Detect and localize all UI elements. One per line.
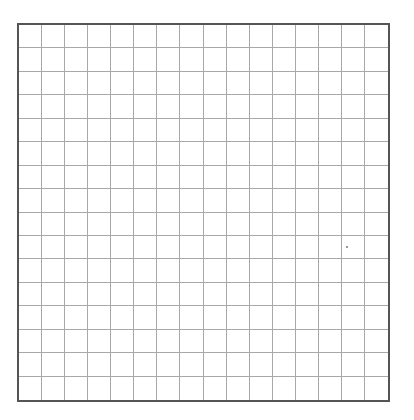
grid-cell <box>342 306 365 329</box>
grid-cell <box>42 283 65 306</box>
grid-cell <box>204 306 227 329</box>
grid-cell <box>227 353 250 376</box>
grid-cell <box>250 213 273 236</box>
grid-cell <box>157 213 180 236</box>
grid-cell <box>250 48 273 71</box>
grid-cell <box>180 48 203 71</box>
grid-cell <box>365 213 388 236</box>
grid-cell <box>273 259 296 282</box>
grid-cell <box>19 25 42 48</box>
grid-cell <box>134 189 157 212</box>
grid-cell <box>204 259 227 282</box>
grid-cell <box>365 48 388 71</box>
grid-cell <box>19 166 42 189</box>
grid-cell <box>180 283 203 306</box>
grid-cell <box>65 25 88 48</box>
grid-cell <box>111 25 134 48</box>
grid-cell <box>204 353 227 376</box>
grid-cell <box>342 353 365 376</box>
grid-cell <box>180 119 203 142</box>
grid-cell <box>88 166 111 189</box>
grid-cell <box>42 353 65 376</box>
grid-cell <box>227 189 250 212</box>
grid-cell <box>365 166 388 189</box>
grid-cell <box>88 48 111 71</box>
grid-cell <box>42 377 65 400</box>
grid-cell <box>319 213 342 236</box>
grid-cell <box>319 377 342 400</box>
grid-cell <box>319 166 342 189</box>
grid-cell <box>227 119 250 142</box>
grid-cell <box>342 213 365 236</box>
grid-cell <box>134 306 157 329</box>
grid-cell <box>273 213 296 236</box>
grid-cell <box>319 72 342 95</box>
grid-cell <box>157 72 180 95</box>
grid-cell <box>296 48 319 71</box>
grid-cell <box>134 25 157 48</box>
grid-cell <box>88 95 111 118</box>
grid-cell <box>204 166 227 189</box>
grid-cell <box>342 259 365 282</box>
grid-cell <box>134 166 157 189</box>
grid-cell <box>111 95 134 118</box>
grid-cell <box>42 306 65 329</box>
grid-cell <box>19 72 42 95</box>
grid-cell <box>273 95 296 118</box>
grid-cell <box>157 166 180 189</box>
grid-cell <box>273 189 296 212</box>
grid-cell <box>250 119 273 142</box>
grid-cell <box>157 330 180 353</box>
grid-cell <box>88 377 111 400</box>
grid-cell <box>19 259 42 282</box>
grid-cell <box>319 353 342 376</box>
grid-cell <box>180 189 203 212</box>
grid-cell <box>180 236 203 259</box>
grid-cell <box>111 236 134 259</box>
grid-cell <box>365 283 388 306</box>
grid-cell <box>342 95 365 118</box>
grid-cell <box>204 283 227 306</box>
grid-cell <box>319 95 342 118</box>
grid-cell <box>204 377 227 400</box>
grid-cell <box>19 213 42 236</box>
grid-cell <box>19 353 42 376</box>
grid-cell <box>204 213 227 236</box>
grid-cell <box>19 236 42 259</box>
grid-cell <box>111 306 134 329</box>
grid-cell <box>227 330 250 353</box>
grid-cell <box>65 189 88 212</box>
grid-cell <box>342 142 365 165</box>
grid-cell <box>42 330 65 353</box>
grid-cell <box>88 259 111 282</box>
grid-cell <box>88 189 111 212</box>
grid-cell <box>42 25 65 48</box>
grid-cell <box>42 259 65 282</box>
grid-cell <box>88 306 111 329</box>
grid-cell <box>296 259 319 282</box>
grid-cell <box>134 259 157 282</box>
grid-cell <box>42 119 65 142</box>
grid-cell <box>134 330 157 353</box>
grid-cell <box>65 119 88 142</box>
grid-cell <box>250 353 273 376</box>
grid-cell <box>180 213 203 236</box>
grid-cell <box>42 166 65 189</box>
grid-cell <box>319 283 342 306</box>
grid-cell <box>273 25 296 48</box>
grid-cell <box>42 213 65 236</box>
grid-cell <box>250 377 273 400</box>
grid-cell <box>180 142 203 165</box>
grid-cell <box>88 213 111 236</box>
grid-cell <box>319 259 342 282</box>
grid-cell <box>227 72 250 95</box>
grid-cell <box>250 330 273 353</box>
grid-cell <box>134 72 157 95</box>
grid-cell <box>250 166 273 189</box>
grid-cell <box>65 166 88 189</box>
grid-cell <box>111 142 134 165</box>
grid-cell <box>273 142 296 165</box>
grid-cell <box>319 236 342 259</box>
grid-cell <box>365 119 388 142</box>
grid-cell <box>227 95 250 118</box>
